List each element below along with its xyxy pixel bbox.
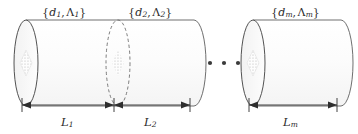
segment-m-lambda-sub: m xyxy=(306,10,313,19)
segment-m-close: } xyxy=(313,6,320,19)
segment-m-d-sub: m xyxy=(285,10,292,19)
segment-2-close: } xyxy=(165,6,172,19)
segment-2-comma: , xyxy=(147,6,151,19)
segment-label-1: {d1, Λ1} xyxy=(42,7,86,19)
Lm-symbol: L xyxy=(283,115,291,129)
cylinder-segment-group-m xyxy=(241,20,353,106)
figure-canvas xyxy=(0,0,358,134)
segment-m-comma: , xyxy=(293,6,297,19)
ellipsis-dot-3 xyxy=(236,61,240,65)
L2-symbol: L xyxy=(144,115,152,129)
L1-sub: 1 xyxy=(69,120,74,129)
Lm-sub: m xyxy=(291,120,298,129)
L2-sub: 2 xyxy=(152,120,157,129)
ellipsis-dot-2 xyxy=(222,61,226,65)
cylinder-m-body-fill xyxy=(253,20,353,106)
ellipsis-dot-1 xyxy=(208,61,212,65)
segment-m-lambda: Λ xyxy=(298,6,306,19)
cylinder-segment-group-a xyxy=(14,20,206,106)
segment-1-close: } xyxy=(79,6,86,19)
ellipsis-dots xyxy=(208,61,240,65)
dimension-label-L1: L1 xyxy=(61,117,73,129)
dimension-label-L2: L2 xyxy=(144,117,156,129)
cylinder-stack-figure: {d1, Λ1} {d2, Λ2} {dm, Λm} L1 L2 Lm xyxy=(0,0,358,134)
segment-1-comma: , xyxy=(61,6,65,19)
dimension-label-Lm: Lm xyxy=(283,117,298,129)
segment-label-2: {d2, Λ2} xyxy=(128,7,172,19)
segment-label-m: {dm, Λm} xyxy=(271,7,320,19)
L1-symbol: L xyxy=(61,115,69,129)
